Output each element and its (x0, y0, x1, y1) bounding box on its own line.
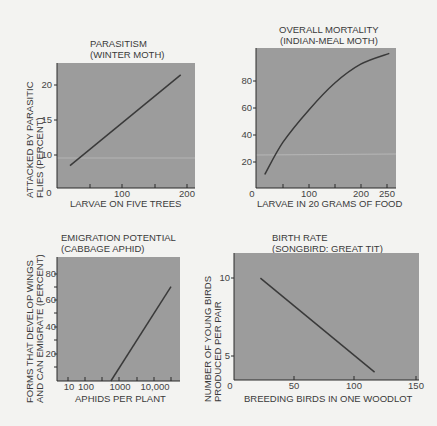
y-axis-label: PRODUCED PER PAIR (212, 301, 223, 402)
charts-svg: PARASITISM (WINTER MOTH) 10 15 20 0 100 … (0, 0, 437, 426)
x-tick-label: 1000 (109, 381, 130, 392)
plot-area (256, 48, 396, 188)
x-tick-label: 100 (346, 380, 362, 391)
origin-label: 0 (46, 187, 51, 198)
chart-subtitle: (WINTER MOTH) (90, 49, 164, 60)
plot-area (57, 257, 180, 381)
y-axis-label: FLIES (PERCENT) (34, 117, 45, 198)
x-tick-label: 200 (179, 188, 195, 199)
y-tick-label: 80 (45, 268, 56, 279)
x-tick-label: 10,000 (140, 381, 169, 392)
origin-label: 0 (249, 188, 254, 199)
x-axis-label: LARVAE ON FIVE TREES (70, 198, 181, 209)
chart-parasitism: PARASITISM (WINTER MOTH) 10 15 20 0 100 … (24, 38, 195, 209)
y-tick-label: 80 (241, 75, 252, 86)
x-axis-label: LARVAE IN 20 GRAMS OF FOOD (257, 198, 402, 209)
y-tick-label: 40 (45, 321, 56, 332)
origin-label: 0 (227, 380, 232, 391)
chart-title: PARASITISM (90, 38, 147, 49)
x-tick-label: 150 (408, 380, 424, 391)
x-axis-label: APHIDS PER PLANT (75, 393, 166, 404)
chart-emigration-potential: EMIGRATION POTENTIAL (CABBAGE APHID) 20 … (24, 232, 180, 404)
y-tick-label: 5 (225, 350, 230, 361)
chart-title: EMIGRATION POTENTIAL (61, 232, 176, 243)
chart-subtitle: (CABBAGE APHID) (61, 243, 144, 254)
plot-area (234, 253, 419, 380)
x-tick-label: 50 (289, 380, 300, 391)
plot-area (57, 63, 195, 188)
y-tick-label: 20 (41, 79, 52, 90)
x-tick-label: 10 (64, 381, 75, 392)
y-tick-label: 10 (219, 272, 230, 283)
chart-title: OVERALL MORTALITY (279, 24, 379, 35)
y-tick-label: 20 (45, 348, 56, 359)
y-tick-label: 40 (241, 129, 252, 140)
y-tick-label: 60 (241, 102, 252, 113)
x-axis-label: BREEDING BIRDS IN ONE WOODLOT (244, 393, 413, 404)
chart-subtitle: (SONGBIRD: GREAT TIT) (272, 243, 383, 254)
chart-title: BIRTH RATE (272, 232, 328, 243)
y-axis-label: AND CAN EMIGRATE (PERCENT) (34, 254, 45, 403)
chart-subtitle: (INDIAN-MEAL MOTH) (280, 35, 378, 46)
chart-overall-mortality: OVERALL MORTALITY (INDIAN-MEAL MOTH) 20 … (241, 24, 402, 209)
y-tick-label: 20 (241, 156, 252, 167)
chart-birth-rate: BIRTH RATE (SONGBIRD: GREAT TIT) 5 10 0 … (202, 232, 424, 404)
x-tick-label: 100 (78, 381, 94, 392)
figure: PARASITISM (WINTER MOTH) 10 15 20 0 100 … (0, 0, 437, 426)
y-tick-label: 60 (45, 294, 56, 305)
